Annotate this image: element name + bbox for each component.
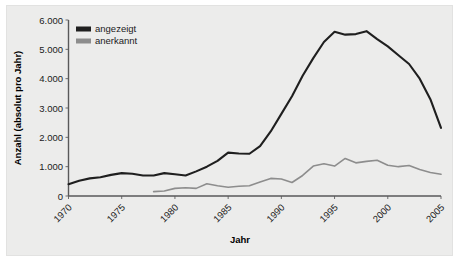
x-tick-label: 1980 bbox=[158, 202, 181, 225]
x-tick-label: 2000 bbox=[370, 202, 393, 225]
x-tick-label: 1985 bbox=[211, 202, 234, 225]
y-tick-label: 6.000 bbox=[39, 15, 63, 26]
y-axis-title: Anzahl (absolut pro Jahr) bbox=[12, 51, 23, 166]
y-tick-label: 3.000 bbox=[39, 103, 63, 114]
x-tick-label: 1970 bbox=[51, 202, 74, 225]
legend-swatch-anerkannt bbox=[76, 39, 91, 44]
y-tick-label: 2.000 bbox=[39, 132, 63, 143]
legend-label-anerkannt: anerkannt bbox=[95, 35, 138, 46]
y-tick-label: 4.000 bbox=[39, 73, 63, 84]
x-tick-label: 1995 bbox=[317, 202, 340, 225]
y-tick-label: 5.000 bbox=[39, 44, 63, 55]
y-axis-tick-labels: 01.0002.0003.0004.0005.0006.000 bbox=[39, 15, 63, 202]
x-tick-label: 1990 bbox=[264, 202, 287, 225]
legend-label-angezeigt: angezeigt bbox=[95, 23, 137, 34]
x-axis-title: Jahr bbox=[230, 234, 250, 245]
chart-legend: angezeigtanerkannt bbox=[76, 23, 138, 46]
legend-swatch-angezeigt bbox=[76, 27, 91, 32]
x-axis-tick-labels: 19701975198019851990199520002005 bbox=[51, 202, 446, 225]
series-lines bbox=[69, 31, 442, 191]
chart-canvas: 01.0002.0003.0004.0005.0006.000 19701975… bbox=[0, 0, 459, 262]
x-tick-label: 2005 bbox=[424, 202, 447, 225]
x-tick-label: 1975 bbox=[104, 202, 127, 225]
chart-figure: 01.0002.0003.0004.0005.0006.000 19701975… bbox=[0, 0, 459, 262]
series-line-anerkannt bbox=[154, 158, 441, 191]
y-tick-label: 1.000 bbox=[39, 161, 63, 172]
series-line-angezeigt bbox=[69, 31, 442, 184]
y-tick-label: 0 bbox=[58, 191, 63, 202]
